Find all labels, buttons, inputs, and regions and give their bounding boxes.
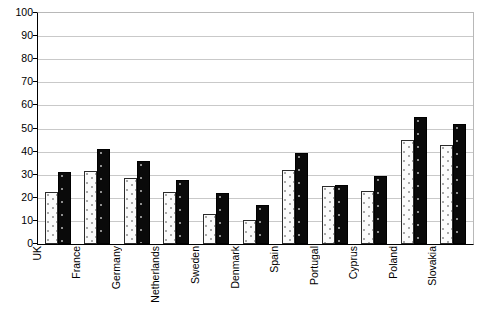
y-axis-tick-label: 30	[0, 169, 33, 179]
y-axis: 0102030405060708090100	[0, 0, 33, 312]
bar-series-1	[401, 140, 414, 244]
bar-series-2	[58, 172, 71, 244]
bar-series-1	[243, 220, 256, 244]
y-axis-tick-label: 80	[0, 53, 33, 63]
bar-group	[203, 13, 229, 244]
y-axis-tick-label: 20	[0, 192, 33, 202]
bar-group	[322, 13, 348, 244]
y-axis-tick-label: 100	[0, 7, 33, 17]
bar-series-2	[295, 153, 308, 244]
bar-group	[84, 13, 110, 244]
bar-group	[282, 13, 308, 244]
plot-area	[37, 12, 474, 245]
bar-group	[440, 13, 466, 244]
bar-series-1	[282, 170, 295, 244]
bar-series-2	[335, 185, 348, 244]
bars-layer	[38, 13, 473, 244]
bar-group	[124, 13, 150, 244]
bar-series-1	[361, 191, 374, 244]
bar-series-2	[414, 117, 427, 244]
bar-group	[243, 13, 269, 244]
bar-series-1	[203, 214, 216, 244]
bar-series-1	[84, 171, 97, 244]
bar-series-2	[256, 205, 269, 244]
bar-series-2	[97, 149, 110, 244]
bar-series-2	[137, 161, 150, 244]
bar-group	[45, 13, 71, 244]
y-axis-tick-label: 10	[0, 215, 33, 225]
bar-chart: 0102030405060708090100 UKFranceGermanyNe…	[0, 0, 482, 312]
y-axis-tick-label: 90	[0, 30, 33, 40]
y-axis-tick-label: 50	[0, 123, 33, 133]
bar-series-2	[216, 193, 229, 244]
y-axis-tick-label: 60	[0, 99, 33, 109]
y-axis-tick-label: 70	[0, 76, 33, 86]
bar-series-2	[453, 124, 466, 244]
bar-series-1	[322, 186, 335, 244]
bar-series-1	[45, 192, 58, 244]
bar-series-1	[440, 145, 453, 244]
x-axis-tick-label: Slovakia	[419, 246, 482, 286]
bar-series-2	[176, 180, 189, 244]
bar-group	[401, 13, 427, 244]
bar-series-1	[163, 192, 176, 244]
bar-series-1	[124, 178, 137, 244]
y-axis-tick-label: 40	[0, 146, 33, 156]
bar-series-2	[374, 176, 387, 244]
bar-group	[163, 13, 189, 244]
x-axis-labels: UKFranceGermanyNetherlandsSwedenDenmarkS…	[37, 246, 472, 312]
bar-group	[361, 13, 387, 244]
